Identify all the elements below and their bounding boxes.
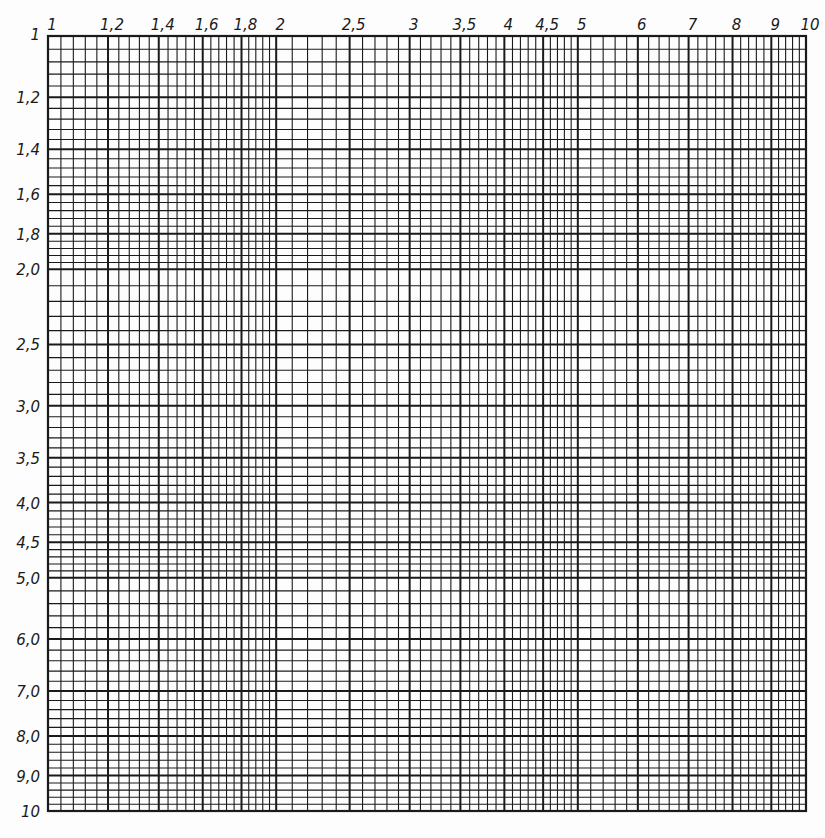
plot-frame	[48, 36, 806, 811]
y-tick-label: 4,5	[16, 534, 40, 552]
x-tick-label: 10	[800, 16, 819, 34]
x-tick-label: 4,5	[535, 16, 559, 34]
y-tick-label: 5,0	[16, 570, 40, 588]
y-tick-label: 2,5	[16, 336, 40, 354]
log-log-graph-paper: 11,21,41,61,822,533,544,55678910 11,21,4…	[0, 0, 825, 838]
y-tick-label: 2,0	[16, 261, 40, 279]
x-tick-label: 1,4	[151, 16, 175, 34]
x-tick-label: 4	[504, 16, 514, 34]
x-axis-tick-labels: 11,21,41,61,822,533,544,55678910	[47, 16, 819, 34]
y-tick-label: 8,0	[16, 728, 40, 746]
y-tick-label: 1,4	[16, 141, 40, 159]
y-tick-label: 6,0	[16, 631, 40, 649]
y-tick-label: 1,6	[16, 186, 40, 204]
y-tick-label: 3,0	[16, 398, 40, 416]
x-tick-label: 2,5	[342, 16, 366, 34]
x-tick-label: 6	[637, 16, 647, 34]
y-tick-label: 4,0	[16, 495, 40, 513]
y-tick-label: 1,8	[16, 226, 40, 244]
x-tick-label: 7	[688, 16, 698, 34]
x-tick-label: 1,2	[100, 16, 124, 34]
x-tick-label: 5	[577, 16, 587, 34]
minor-grid-lines	[48, 36, 806, 811]
major-grid-lines	[48, 36, 806, 811]
x-tick-label: 2	[275, 16, 285, 34]
x-tick-label: 9	[771, 16, 781, 34]
x-tick-label: 1	[47, 16, 57, 34]
y-tick-label: 10	[21, 803, 40, 821]
y-axis-tick-labels: 11,21,41,61,82,02,53,03,54,04,55,06,07,0…	[16, 26, 40, 821]
log-grid: 11,21,41,61,822,533,544,55678910 11,21,4…	[0, 0, 825, 838]
y-tick-label: 3,5	[16, 450, 40, 468]
y-tick-label: 7,0	[16, 683, 40, 701]
y-tick-label: 9,0	[16, 768, 40, 786]
x-tick-label: 1,8	[234, 16, 258, 34]
x-tick-label: 8	[732, 16, 742, 34]
y-tick-label: 1	[30, 26, 40, 44]
y-tick-label: 1,2	[16, 89, 40, 107]
x-tick-label: 3,5	[452, 16, 476, 34]
x-tick-label: 1,6	[195, 16, 219, 34]
x-tick-label: 3	[409, 16, 419, 34]
